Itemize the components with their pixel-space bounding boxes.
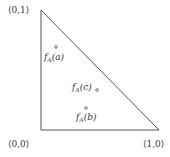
triangle-diagram (0, 0, 170, 157)
point-label-b: fA(b) (76, 112, 96, 123)
vertex-label-top: ⟨0,1⟩ (8, 5, 29, 15)
point-label-c: fA(c) (72, 82, 92, 93)
vertex-label-origin: ⟨0,0⟩ (8, 139, 29, 149)
point-label-a: fA(a) (44, 52, 64, 63)
point-b (85, 107, 88, 110)
point-c (96, 89, 99, 92)
point-a (55, 46, 58, 49)
simplex-triangle (41, 10, 159, 130)
vertex-label-right: ⟨1,0⟩ (143, 139, 164, 149)
